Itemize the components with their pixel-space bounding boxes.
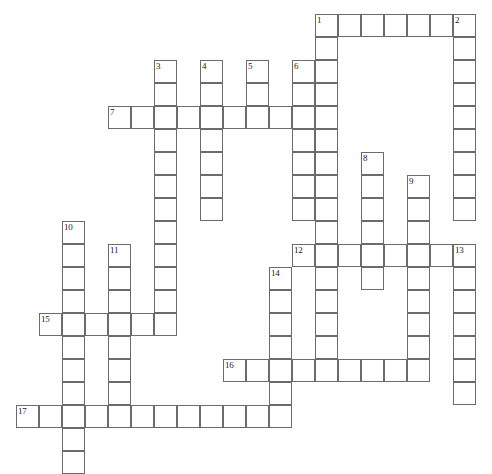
crossword-cell[interactable] <box>39 313 62 336</box>
crossword-cell[interactable] <box>62 313 85 336</box>
crossword-cell[interactable] <box>269 405 292 428</box>
crossword-cell[interactable] <box>338 14 361 37</box>
crossword-cell[interactable] <box>292 83 315 106</box>
crossword-cell[interactable] <box>200 152 223 175</box>
crossword-cell[interactable] <box>292 359 315 382</box>
crossword-cell[interactable] <box>269 359 292 382</box>
crossword-cell[interactable] <box>131 106 154 129</box>
crossword-cell[interactable] <box>315 175 338 198</box>
crossword-cell[interactable] <box>62 405 85 428</box>
crossword-cell[interactable] <box>154 152 177 175</box>
crossword-cell[interactable] <box>62 267 85 290</box>
crossword-cell[interactable] <box>407 14 430 37</box>
crossword-cell[interactable] <box>200 83 223 106</box>
crossword-cell[interactable] <box>246 405 269 428</box>
crossword-cell[interactable] <box>361 14 384 37</box>
crossword-cell[interactable] <box>269 106 292 129</box>
crossword-cell[interactable] <box>453 152 476 175</box>
crossword-cell[interactable] <box>62 382 85 405</box>
crossword-cell[interactable] <box>85 405 108 428</box>
crossword-cell[interactable] <box>62 336 85 359</box>
crossword-cell[interactable] <box>292 175 315 198</box>
crossword-cell[interactable] <box>154 106 177 129</box>
crossword-cell[interactable] <box>453 175 476 198</box>
crossword-cell[interactable] <box>154 313 177 336</box>
crossword-cell[interactable] <box>453 198 476 221</box>
crossword-cell[interactable] <box>361 152 384 175</box>
crossword-cell[interactable] <box>62 221 85 244</box>
crossword-cell[interactable] <box>108 290 131 313</box>
crossword-cell[interactable] <box>246 106 269 129</box>
crossword-cell[interactable] <box>269 336 292 359</box>
crossword-cell[interactable] <box>246 83 269 106</box>
crossword-cell[interactable] <box>246 359 269 382</box>
crossword-cell[interactable] <box>154 244 177 267</box>
crossword-cell[interactable] <box>315 83 338 106</box>
crossword-cell[interactable] <box>154 290 177 313</box>
crossword-cell[interactable] <box>384 14 407 37</box>
crossword-cell[interactable] <box>315 60 338 83</box>
crossword-cell[interactable] <box>315 221 338 244</box>
crossword-cell[interactable] <box>292 152 315 175</box>
crossword-cell[interactable] <box>154 175 177 198</box>
crossword-cell[interactable] <box>384 359 407 382</box>
crossword-cell[interactable] <box>453 267 476 290</box>
crossword-cell[interactable] <box>453 83 476 106</box>
crossword-cell[interactable] <box>338 244 361 267</box>
crossword-cell[interactable] <box>453 313 476 336</box>
crossword-cell[interactable] <box>200 198 223 221</box>
crossword-cell[interactable] <box>108 106 131 129</box>
crossword-cell[interactable] <box>62 290 85 313</box>
crossword-cell[interactable] <box>338 359 361 382</box>
crossword-cell[interactable] <box>177 405 200 428</box>
crossword-cell[interactable] <box>131 313 154 336</box>
crossword-cell[interactable] <box>108 267 131 290</box>
crossword-cell[interactable] <box>108 359 131 382</box>
crossword-cell[interactable] <box>407 359 430 382</box>
crossword-cell[interactable] <box>292 106 315 129</box>
crossword-cell[interactable] <box>407 290 430 313</box>
crossword-cell[interactable] <box>154 83 177 106</box>
crossword-cell[interactable] <box>154 198 177 221</box>
crossword-cell[interactable] <box>430 14 453 37</box>
crossword-cell[interactable] <box>223 405 246 428</box>
crossword-cell[interactable] <box>16 405 39 428</box>
crossword-cell[interactable] <box>453 106 476 129</box>
crossword-cell[interactable] <box>108 382 131 405</box>
crossword-cell[interactable] <box>131 405 154 428</box>
crossword-cell[interactable] <box>453 359 476 382</box>
crossword-cell[interactable] <box>292 244 315 267</box>
crossword-cell[interactable] <box>453 129 476 152</box>
crossword-cell[interactable] <box>154 129 177 152</box>
crossword-cell[interactable] <box>315 359 338 382</box>
crossword-cell[interactable] <box>269 313 292 336</box>
crossword-cell[interactable] <box>361 175 384 198</box>
crossword-cell[interactable] <box>200 129 223 152</box>
crossword-cell[interactable] <box>269 267 292 290</box>
crossword-cell[interactable] <box>200 405 223 428</box>
crossword-cell[interactable] <box>361 221 384 244</box>
crossword-cell[interactable] <box>154 405 177 428</box>
crossword-cell[interactable] <box>315 14 338 37</box>
crossword-cell[interactable] <box>453 60 476 83</box>
crossword-cell[interactable] <box>453 290 476 313</box>
crossword-cell[interactable] <box>315 313 338 336</box>
crossword-cell[interactable] <box>108 405 131 428</box>
crossword-cell[interactable] <box>200 175 223 198</box>
crossword-cell[interactable] <box>430 244 453 267</box>
crossword-cell[interactable] <box>154 267 177 290</box>
crossword-cell[interactable] <box>407 336 430 359</box>
crossword-cell[interactable] <box>453 37 476 60</box>
crossword-cell[interactable] <box>361 244 384 267</box>
crossword-cell[interactable] <box>361 267 384 290</box>
crossword-cell[interactable] <box>384 244 407 267</box>
crossword-cell[interactable] <box>315 244 338 267</box>
crossword-cell[interactable] <box>154 221 177 244</box>
crossword-cell[interactable] <box>361 359 384 382</box>
crossword-cell[interactable] <box>108 244 131 267</box>
crossword-cell[interactable] <box>407 198 430 221</box>
crossword-cell[interactable] <box>177 106 200 129</box>
crossword-cell[interactable] <box>407 175 430 198</box>
crossword-cell[interactable] <box>453 382 476 405</box>
